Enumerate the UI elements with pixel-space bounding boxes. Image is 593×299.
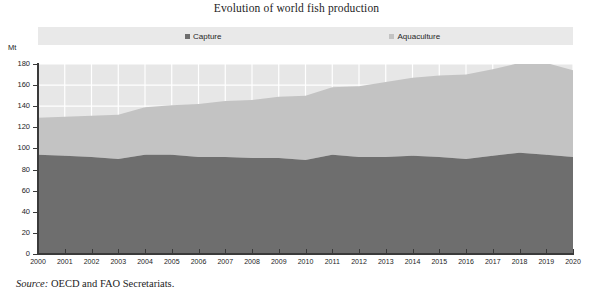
y-axis-tick [33, 85, 38, 86]
area-capture [38, 153, 573, 254]
x-axis-tick [145, 249, 146, 254]
x-axis-tick [306, 249, 307, 254]
x-axis-label: 2013 [371, 258, 401, 265]
x-axis-label: 2003 [103, 258, 133, 265]
legend-label-capture: Capture [193, 32, 221, 41]
legend-swatch-capture [185, 34, 190, 39]
x-axis-tick [199, 249, 200, 254]
x-axis-tick [225, 249, 226, 254]
x-axis-tick [92, 249, 93, 254]
y-axis-label: 80 [2, 166, 30, 174]
x-axis-tick [65, 249, 66, 254]
x-axis-label: 2009 [264, 258, 294, 265]
y-axis-line [37, 63, 39, 255]
x-axis-tick [332, 249, 333, 254]
legend-label-aquaculture: Aquaculture [397, 32, 440, 41]
x-axis-label: 2014 [398, 258, 428, 265]
x-axis-label: 2015 [424, 258, 454, 265]
y-axis-label: 40 [2, 208, 30, 216]
x-axis-tick [386, 249, 387, 254]
source-text: OECD and FAO Secretariats. [51, 278, 174, 289]
y-axis-tick [33, 254, 38, 255]
y-axis-label: 60 [2, 187, 30, 195]
x-axis-tick [38, 249, 39, 254]
y-axis-label: 100 [2, 144, 30, 152]
x-axis-label: 2011 [317, 258, 347, 265]
x-axis-label: 2018 [505, 258, 535, 265]
y-axis-tick [33, 212, 38, 213]
x-axis-tick [546, 249, 547, 254]
legend-item-capture[interactable]: Capture [185, 32, 221, 41]
chart-legend: Capture Aquaculture [38, 27, 573, 45]
x-axis-tick [573, 249, 574, 254]
x-axis-tick [520, 249, 521, 254]
x-axis-tick [413, 249, 414, 254]
x-axis-tick [279, 249, 280, 254]
y-axis-unit-label: Mt [8, 43, 16, 52]
y-axis-tick [33, 106, 38, 107]
y-axis-label: 160 [2, 81, 30, 89]
legend-swatch-aquaculture [389, 34, 394, 39]
x-axis-label: 2016 [451, 258, 481, 265]
x-axis-label: 2008 [237, 258, 267, 265]
y-axis-label: 180 [2, 60, 30, 68]
y-axis-tick [33, 170, 38, 171]
x-axis-tick [252, 249, 253, 254]
x-axis-tick [359, 249, 360, 254]
source-label: Source: [16, 278, 48, 289]
y-axis-label: 120 [2, 123, 30, 131]
x-axis-label: 2004 [130, 258, 160, 265]
y-axis-tick [33, 148, 38, 149]
chart-figure: Evolution of world fish production Captu… [0, 0, 593, 299]
x-axis-label: 2006 [184, 258, 214, 265]
x-axis-label: 2012 [344, 258, 374, 265]
x-axis-label: 2010 [291, 258, 321, 265]
x-axis-tick [466, 249, 467, 254]
x-axis-tick [439, 249, 440, 254]
y-axis-tick [33, 64, 38, 65]
stacked-area-svg [38, 64, 573, 254]
x-axis-label: 2000 [23, 258, 53, 265]
x-axis-tick [172, 249, 173, 254]
y-axis-label: 140 [2, 102, 30, 110]
y-axis-label: 0 [2, 250, 30, 258]
y-axis-tick [33, 191, 38, 192]
y-axis-label: 20 [2, 229, 30, 237]
legend-item-aquaculture[interactable]: Aquaculture [389, 32, 440, 41]
x-axis-label: 2019 [531, 258, 561, 265]
plot-area [38, 64, 573, 254]
x-axis-label: 2002 [77, 258, 107, 265]
x-axis-tick [118, 249, 119, 254]
x-axis-label: 2001 [50, 258, 80, 265]
x-axis-label: 2007 [210, 258, 240, 265]
source-note: Source: OECD and FAO Secretariats. [16, 278, 174, 289]
y-axis-tick [33, 127, 38, 128]
x-axis-label: 2017 [478, 258, 508, 265]
x-axis-label: 2005 [157, 258, 187, 265]
x-axis-tick [493, 249, 494, 254]
chart-title: Evolution of world fish production [0, 2, 593, 14]
y-axis-tick [33, 233, 38, 234]
x-axis-label: 2020 [558, 258, 588, 265]
